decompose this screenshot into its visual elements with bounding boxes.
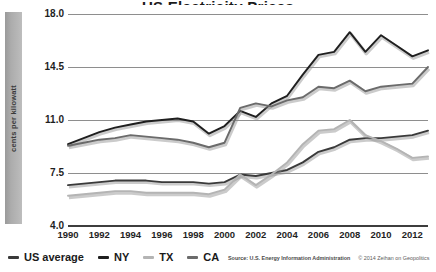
y-axis-ticks: 18.014.511.07.54.0 xyxy=(20,14,64,226)
legend-item-ny[interactable]: NY xyxy=(98,251,129,263)
legend-swatch-icon xyxy=(187,256,198,259)
y-tick-label: 7.5 xyxy=(22,167,64,178)
legend-label: CA xyxy=(203,251,219,263)
series-shadow xyxy=(69,122,429,198)
x-tick-label: 1990 xyxy=(57,229,78,240)
x-tick-label: 1992 xyxy=(89,229,110,240)
legend-label: TX xyxy=(159,251,173,263)
x-tick-label: 2008 xyxy=(339,229,360,240)
series-line-tx xyxy=(68,120,428,196)
legend-swatch-icon xyxy=(8,256,19,259)
plot-area xyxy=(68,14,428,226)
x-tick-label: 2010 xyxy=(370,229,391,240)
x-tick-label: 2000 xyxy=(214,229,235,240)
legend-item-tx[interactable]: TX xyxy=(143,251,173,263)
legend-label: NY xyxy=(114,251,129,263)
x-axis-ticks: 1990199219941996199820002002200420062008… xyxy=(68,229,428,243)
legend-swatch-icon xyxy=(143,256,154,259)
chart-container: US Electricity Prices cents per kilowatt… xyxy=(0,0,436,272)
x-tick-label: 1996 xyxy=(151,229,172,240)
source-text: Source: U.S. Energy Information Administ… xyxy=(228,255,350,261)
legend-item-us-average[interactable]: US average xyxy=(8,251,84,263)
y-axis-title-text: cents per kilowatt xyxy=(9,85,18,152)
chart-title: US Electricity Prices xyxy=(0,0,436,5)
x-tick-label: 2006 xyxy=(308,229,329,240)
x-tick-label: 2004 xyxy=(277,229,298,240)
y-tick-label: 18.0 xyxy=(22,8,64,19)
x-tick-label: 1998 xyxy=(183,229,204,240)
y-tick-label: 14.5 xyxy=(22,61,64,72)
y-tick-label: 11.0 xyxy=(22,114,64,125)
series-lines xyxy=(68,14,428,226)
copyright-text: © 2014 Zeihan on Geopolitics xyxy=(358,255,429,261)
x-tick-label: 1994 xyxy=(120,229,141,240)
credits: Source: U.S. Energy Information Administ… xyxy=(228,252,434,264)
x-tick-label: 2002 xyxy=(245,229,266,240)
x-tick-label: 2012 xyxy=(402,229,423,240)
legend-swatch-icon xyxy=(98,256,109,259)
legend-item-ca[interactable]: CA xyxy=(187,251,219,263)
legend-label: US average xyxy=(24,251,84,263)
chart-legend: US averageNYTXCA xyxy=(8,248,233,266)
